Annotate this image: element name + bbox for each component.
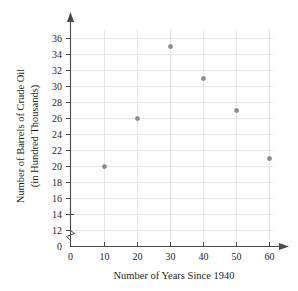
ytick-label-24: 24 <box>52 129 62 140</box>
data-point <box>136 117 140 121</box>
ytick-label-26: 26 <box>52 113 62 124</box>
xtick-label-10: 10 <box>100 251 110 262</box>
data-point <box>202 77 206 81</box>
data-point <box>103 165 107 169</box>
ytick-label-14: 14 <box>52 209 62 220</box>
ytick-label-12: 12 <box>52 225 62 236</box>
ytick-label-20: 20 <box>52 161 62 172</box>
y-axis-title-line1: Number of Barrels of Crude Oil <box>15 69 26 204</box>
xtick-label-30: 30 <box>166 251 176 262</box>
data-point <box>235 109 239 113</box>
chart-background <box>0 0 298 291</box>
ytick-label-36: 36 <box>52 33 62 44</box>
data-point <box>169 45 173 49</box>
ytick-label-18: 18 <box>52 177 62 188</box>
xtick-label-60: 60 <box>265 251 275 262</box>
ytick-label-32: 32 <box>52 65 62 76</box>
ytick-label-30: 30 <box>52 81 62 92</box>
chart-canvas: 36 34 32 30 28 26 24 22 20 18 16 14 12 0… <box>0 0 298 291</box>
y-axis-title-line2: (in Hundred Thousands) <box>29 84 41 187</box>
ytick-label-34: 34 <box>52 49 62 60</box>
x-axis-title: Number of Years Since 1940 <box>113 270 234 281</box>
xtick-label-0: 0 <box>68 251 73 262</box>
scatter-plot-figure: 36 34 32 30 28 26 24 22 20 18 16 14 12 0… <box>0 0 298 291</box>
data-point <box>268 157 272 161</box>
ytick-label-28: 28 <box>52 97 62 108</box>
xtick-label-20: 20 <box>133 251 143 262</box>
ytick-label-16: 16 <box>52 193 62 204</box>
xtick-label-40: 40 <box>199 251 209 262</box>
ytick-label-22: 22 <box>52 145 62 156</box>
ytick-label-0: 0 <box>57 241 62 252</box>
xtick-label-50: 50 <box>232 251 242 262</box>
